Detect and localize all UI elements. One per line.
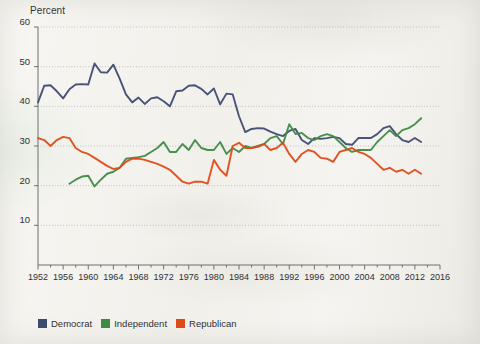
line-chart: Percent 60504030201019521956196019641968… [0,0,480,344]
legend-label: Democrat [51,318,92,329]
legend-label: Independent [114,318,167,329]
legend-item: Democrat [38,318,92,329]
y-axis-tick-label: 20 [8,175,30,186]
chart-legend: DemocratIndependentRepublican [38,318,237,329]
y-axis-tick-label: 60 [8,16,30,27]
y-axis-tick-label: 10 [8,214,30,225]
legend-swatch-democrat [38,319,47,328]
x-axis-tick-label: 2016 [425,272,455,282]
y-axis-tick-label: 50 [8,56,30,67]
y-axis-tick-label: 40 [8,95,30,106]
y-axis-tick-label: 30 [8,135,30,146]
y-axis-title: Percent [30,5,65,16]
chart-canvas [0,0,480,344]
legend-swatch-republican [176,319,185,328]
legend-item: Independent [101,318,167,329]
legend-label: Republican [189,318,237,329]
legend-item: Republican [176,318,237,329]
legend-swatch-independent [101,319,110,328]
